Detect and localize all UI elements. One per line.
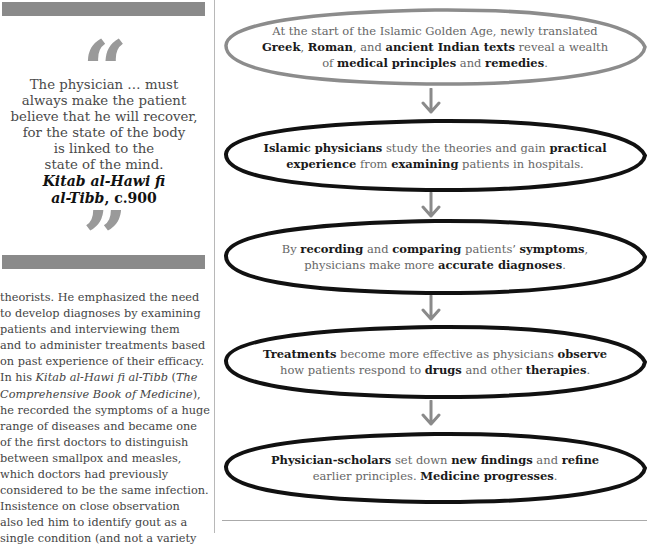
down-arrow-icon [419,295,443,323]
close-quote-icon: ” [0,210,206,246]
source-title-line1: Kitab al-Hawi fi [43,173,166,189]
body-line: considered to be the same infection. [0,483,206,499]
source-title-line2: al-Tibb [51,190,104,206]
bottom-gray-rule [2,255,205,269]
flow-step-2: Islamic physicians study the theories an… [222,117,648,194]
body-line: between smallpox and measles, [0,451,206,467]
flow-step-5: Physician-scholars set down new findings… [222,430,648,506]
body-line: In his Kitab al-Hawi fi al-Tibb (The [0,370,206,386]
open-quote-icon: “ [0,36,206,76]
column-divider [214,0,215,533]
body-line: Insistence on close observation [0,499,206,515]
body-line: he recorded the symptoms of a huge [0,403,206,419]
body-line: Comprehensive Book of Medicine), [0,387,206,403]
quote-line: is linked to the [4,141,204,157]
flow-step-text: Islamic physicians study the theories an… [222,140,648,172]
quote-line: for the state of the body [4,125,204,141]
body-line: patients and interviewing them [0,322,206,338]
bottom-rule [222,520,647,521]
sidebar-column: “ The physician … must always make the p… [0,0,206,533]
body-line: of the first doctors to distinguish [0,435,206,451]
body-line: single condition (and not a variety [0,531,206,547]
pull-quote: The physician … must always make the pat… [4,77,204,173]
quote-line: state of the mind. [4,157,204,173]
body-line: and to administer treatments based [0,338,206,354]
body-line: range of diseases and became one [0,419,206,435]
flow-step-1: At the start of the Islamic Golden Age, … [222,6,648,88]
top-gray-rule [2,2,205,16]
body-line: on past experience of their efficacy. [0,354,206,370]
down-arrow-icon [419,88,443,116]
body-line: theorists. He emphasized the need [0,290,206,306]
down-arrow-icon [419,192,443,220]
quote-line: believe that he will recover, [4,109,204,125]
flow-step-4: Treatments become more effective as phys… [222,323,648,401]
quote-line: always make the patient [4,93,204,109]
body-paragraph: theorists. He emphasized the needto deve… [0,290,206,548]
body-line: which doctors had previously [0,467,206,483]
flow-step-text: By recording and comparing patients’ sym… [222,241,648,273]
quote-source: Kitab al-Hawi fi al-Tibb, c.900 [4,173,204,206]
down-arrow-icon [419,400,443,428]
body-line: to develop diagnoses by examining [0,306,206,322]
source-date: , c.900 [104,190,156,206]
flow-step-3: By recording and comparing patients’ sym… [222,217,648,297]
quote-line: The physician … must [4,77,204,93]
body-line: also led him to identify gout as a [0,515,206,531]
flow-step-text: Physician-scholars set down new findings… [222,452,648,484]
flow-step-text: Treatments become more effective as phys… [222,346,648,378]
flow-step-text: At the start of the Islamic Golden Age, … [222,23,648,71]
